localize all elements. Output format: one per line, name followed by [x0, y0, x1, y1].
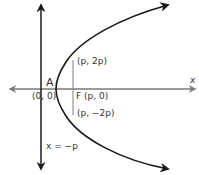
lower-point-label: (p, −2p)	[77, 109, 114, 118]
vertex-coords-label: (0, 0)	[32, 92, 56, 101]
x-axis-label: x	[190, 76, 195, 85]
focus-label: F (p, 0)	[76, 92, 108, 101]
upper-point-label: (p, 2p)	[77, 57, 107, 66]
directrix-label: x = −p	[46, 142, 78, 151]
parabola-diagram	[0, 0, 199, 175]
vertex-letter-label: A	[46, 77, 54, 88]
